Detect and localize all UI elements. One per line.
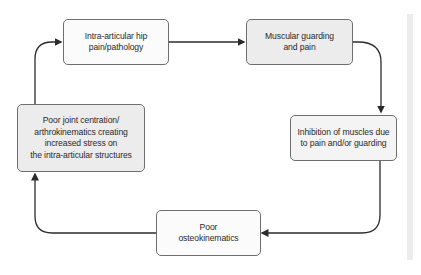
arrow-centration-to-hip-pain — [35, 42, 61, 104]
arrow-osteokinematics-to-centration — [35, 174, 156, 233]
node-hip-pain-pathology: Intra-articular hip pain/pathology — [63, 19, 169, 65]
node-poor-osteokinematics: Poor osteokinematics — [156, 210, 261, 256]
arrow-inhibition-to-osteokinematics — [262, 160, 380, 233]
node-muscular-guarding: Muscular guarding and pain — [246, 19, 353, 65]
cycle-diagram: Intra-articular hip pain/pathology Muscu… — [0, 0, 421, 275]
arrow-guarding-to-inhibition — [352, 42, 381, 112]
node-label: Intra-articular hip pain/pathology — [85, 31, 148, 54]
node-label: Muscular guarding and pain — [265, 31, 334, 54]
node-label: Poor osteokinematics — [178, 222, 238, 245]
node-muscle-inhibition: Inhibition of muscles due to pain and/or… — [290, 115, 397, 161]
node-poor-joint-centration: Poor joint centration/ arthrokinematics … — [17, 104, 145, 172]
node-label: Inhibition of muscles due to pain and/or… — [297, 127, 389, 150]
node-label: Poor joint centration/ arthrokinematics … — [30, 115, 132, 161]
page-edge-strip — [407, 14, 413, 260]
